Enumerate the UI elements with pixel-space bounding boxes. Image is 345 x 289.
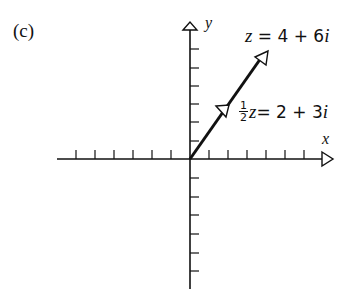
z-label-i: i <box>324 25 329 46</box>
half-z-label-rest: = 2 + 3 <box>256 102 322 122</box>
z-label-rest: = 4 + 6 <box>252 26 324 46</box>
fraction-one-half: 1 2 <box>239 100 248 123</box>
y-ticks <box>190 49 199 271</box>
half-z-label: 1 2 z = 2 + 3i <box>239 100 328 123</box>
fraction-denominator: 2 <box>240 112 247 123</box>
y-axis-label: y <box>205 14 212 32</box>
half-z-label-i: i <box>323 101 328 123</box>
complex-plane-figure: (c) y x z = 4 + 6i 1 2 z = 2 + 3i <box>0 0 345 289</box>
x-axis-label: x <box>322 130 329 148</box>
panel-label: (c) <box>13 20 34 42</box>
x-axis-arrow-icon <box>322 152 333 166</box>
y-axis-arrow-icon <box>183 22 197 30</box>
z-label: z = 4 + 6i <box>245 25 329 47</box>
half-z-label-var: z <box>249 101 256 123</box>
